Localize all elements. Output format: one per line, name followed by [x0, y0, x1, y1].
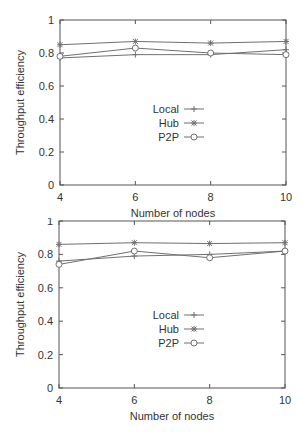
- x-axis-label: Number of nodes: [130, 410, 215, 422]
- legend-label-p2p: P2P: [158, 131, 179, 143]
- y-axis-label: Throughput efficiency: [14, 50, 26, 155]
- circle-marker-icon: [131, 248, 137, 254]
- series-line: [59, 251, 285, 264]
- x-tick-label: 6: [132, 191, 138, 203]
- y-tick-label: 0.6: [39, 80, 54, 92]
- circle-marker-icon: [191, 340, 197, 346]
- star-marker-icon: [207, 241, 213, 247]
- circle-marker-icon: [56, 261, 62, 267]
- plus-marker-icon: [191, 106, 197, 112]
- legend: LocalHubP2P: [153, 309, 204, 349]
- star-marker-icon: [282, 240, 288, 246]
- top-throughput-chart: 00.20.40.60.8146810Number of nodesThroug…: [0, 0, 306, 218]
- x-tick-label: 10: [280, 191, 292, 203]
- plus-marker-icon: [132, 52, 138, 58]
- star-marker-icon: [132, 38, 138, 44]
- bottom-throughput-chart: 00.20.40.60.8146810Number of nodesThroug…: [0, 218, 306, 439]
- star-marker-icon: [56, 241, 62, 247]
- series-hub: [56, 240, 288, 248]
- legend-label-p2p: P2P: [158, 337, 179, 349]
- y-tick-label: 0: [47, 382, 53, 394]
- legend-label-hub: Hub: [159, 323, 179, 335]
- star-marker-icon: [208, 40, 214, 46]
- x-tick-label: 4: [56, 394, 62, 406]
- x-tick-label: 4: [57, 191, 63, 203]
- circle-marker-icon: [132, 45, 138, 51]
- legend-label-local: Local: [153, 309, 179, 321]
- series-p2p: [56, 248, 288, 267]
- top-chart-plot: 00.20.40.60.8146810Number of nodesThroug…: [0, 0, 306, 218]
- series-line: [59, 243, 285, 245]
- circle-marker-icon: [282, 248, 288, 254]
- y-axis-label: Throughput efficiency: [14, 252, 26, 357]
- star-marker-icon: [191, 326, 197, 332]
- y-tick-label: 0.2: [39, 146, 54, 158]
- series-hub: [57, 38, 289, 47]
- star-marker-icon: [131, 240, 137, 246]
- series-line: [59, 251, 285, 261]
- bottom-chart-plot: 00.20.40.60.8146810Number of nodesThroug…: [0, 218, 306, 439]
- legend-label-hub: Hub: [159, 117, 179, 129]
- y-tick-label: 0.4: [39, 113, 54, 125]
- y-tick-label: 0.2: [38, 349, 53, 361]
- star-marker-icon: [283, 38, 289, 44]
- star-marker-icon: [57, 42, 63, 48]
- x-tick-label: 8: [207, 394, 213, 406]
- y-tick-label: 1: [48, 14, 54, 26]
- x-tick-label: 6: [131, 394, 137, 406]
- series-line: [60, 41, 286, 44]
- x-axis-label: Number of nodes: [131, 207, 216, 218]
- circle-marker-icon: [207, 255, 213, 261]
- y-tick-label: 0.8: [38, 248, 53, 260]
- star-marker-icon: [191, 120, 197, 126]
- legend-label-local: Local: [153, 103, 179, 115]
- plot-frame: [59, 221, 285, 388]
- y-tick-label: 0: [48, 179, 54, 191]
- series-local: [56, 248, 288, 264]
- circle-marker-icon: [208, 50, 214, 56]
- circle-marker-icon: [283, 52, 289, 58]
- legend: LocalHubP2P: [153, 103, 204, 143]
- y-tick-label: 1: [47, 218, 53, 227]
- circle-marker-icon: [191, 134, 197, 140]
- y-tick-label: 0.6: [38, 282, 53, 294]
- x-tick-label: 10: [279, 394, 291, 406]
- y-tick-label: 0.4: [38, 315, 53, 327]
- y-tick-label: 0.8: [39, 47, 54, 59]
- circle-marker-icon: [57, 53, 63, 59]
- plus-marker-icon: [191, 312, 197, 318]
- x-tick-label: 8: [208, 191, 214, 203]
